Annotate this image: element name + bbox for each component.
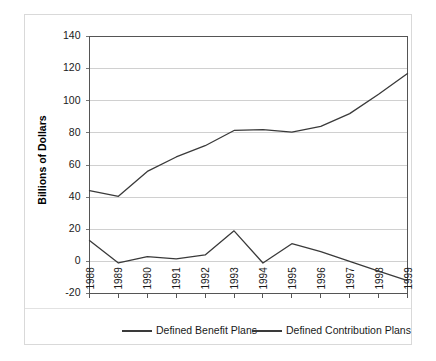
y-tick-label: 80: [69, 126, 81, 138]
legend-label-0: Defined Benefit Plans: [156, 324, 257, 336]
x-tick-label-1991: 1991: [171, 267, 182, 290]
x-tick-label-1996: 1996: [316, 267, 327, 290]
y-tick-label: 140: [63, 29, 81, 41]
series-line-1: [90, 73, 408, 196]
y-tick-label: 40: [69, 190, 81, 202]
gridlines: [90, 37, 408, 262]
x-tick-label-1990: 1990: [142, 267, 153, 290]
y-tick-label: -20: [65, 286, 80, 298]
x-tick-label-1995: 1995: [287, 267, 298, 290]
x-axis-labels: 1988198919901991199219931994199519961997…: [85, 267, 414, 290]
y-axis-title: Billions of Dollars: [36, 115, 48, 204]
x-tick-label-1994: 1994: [258, 267, 269, 290]
x-tick-label-1988: 1988: [85, 267, 96, 290]
y-tick-label: 60: [69, 158, 81, 170]
chart-legend: Defined Benefit PlansDefined Contributio…: [122, 324, 411, 336]
line-chart: Billions of Dollars -2002040608010012014…: [0, 0, 436, 361]
x-tick-label-1999: 1999: [403, 267, 414, 290]
x-tick-label-1989: 1989: [113, 267, 124, 290]
x-tick-label-1992: 1992: [200, 267, 211, 290]
figure: Billions of Dollars -2002040608010012014…: [0, 0, 436, 361]
data-series-group: [90, 73, 408, 280]
x-tick-label-1993: 1993: [229, 267, 240, 290]
legend-label-1: Defined Contribution Plans: [286, 324, 411, 336]
y-tick-label: 20: [69, 222, 81, 234]
x-tick-label-1997: 1997: [345, 267, 356, 290]
series-line-0: [90, 231, 408, 281]
y-tick-label: 100: [63, 94, 81, 106]
y-tick-label: 120: [63, 61, 81, 73]
y-tick-label: 0: [75, 254, 81, 266]
y-axis-ticks: -20020406080100120140: [63, 29, 90, 298]
